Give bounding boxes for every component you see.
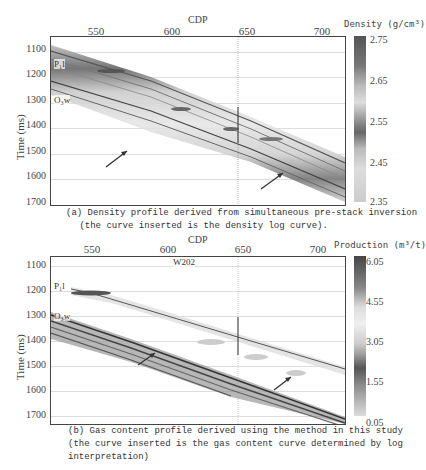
colorbar-tick: 2.45 — [370, 157, 388, 168]
y-axis-title: Time (ms) — [14, 114, 26, 160]
x-tick: 650 — [235, 243, 252, 255]
y-tick: 1700 — [16, 196, 46, 207]
colorbar-tick: 6.05 — [366, 256, 384, 267]
colorbar-tick: 2.55 — [370, 116, 388, 127]
density-profile-plot: P₁l O₃w — [50, 36, 346, 206]
x-tick: 550 — [84, 243, 101, 255]
x-tick: 600 — [160, 243, 177, 255]
caption-b-line1: (b) Gas content profile derived using th… — [68, 425, 403, 438]
y-tick: 1300 — [16, 94, 46, 105]
colorbar-title: Density (g/cm³) — [344, 19, 425, 29]
y-tick: 1100 — [16, 43, 46, 54]
colorbar-tick: 1.55 — [366, 376, 384, 387]
x-tick: 700 — [310, 243, 327, 255]
gas-content-section — [51, 257, 345, 424]
colorbar-tick: 2.35 — [370, 196, 388, 207]
colorbar-tick: 2.75 — [370, 34, 388, 45]
caption-b-line3: interpretation) — [68, 451, 149, 464]
density-section — [51, 37, 345, 205]
y-tick: 1200 — [16, 284, 46, 295]
production-colorbar — [354, 256, 366, 416]
y-tick: 1700 — [16, 409, 46, 420]
horizon-label-o3w: O₃w — [54, 95, 70, 105]
colorbar-tick: 3.05 — [366, 336, 384, 347]
horizon-label-p1l: P₁l — [54, 59, 65, 69]
horizon-label-o3w: O₃w — [54, 311, 70, 321]
y-tick: 1600 — [16, 384, 46, 395]
colorbar-tick: 2.65 — [370, 75, 388, 86]
caption-b-line2: (the curve inserted is the gas content c… — [68, 438, 403, 451]
x-axis-title: CDP — [188, 14, 207, 25]
horizon-label-p1l: P₁l — [54, 281, 65, 291]
y-axis-title: Time (ms) — [14, 334, 26, 380]
y-tick: 1100 — [16, 259, 46, 270]
caption-a-line1: (a) Density profile derived from simulta… — [66, 207, 417, 220]
y-tick: 1300 — [16, 309, 46, 320]
y-tick: 1600 — [16, 170, 46, 181]
caption-a-line2: (the curve inserted is the density log c… — [74, 220, 328, 233]
colorbar-tick: 4.55 — [366, 296, 384, 307]
density-colorbar — [354, 36, 366, 202]
gas-content-profile-plot: W202 P₁l O₃w — [50, 256, 346, 425]
well-label: W202 — [173, 257, 195, 267]
y-tick: 1200 — [16, 68, 46, 79]
x-axis-title: CDP — [188, 234, 207, 245]
colorbar-title: Production (m³/t) — [334, 240, 426, 250]
